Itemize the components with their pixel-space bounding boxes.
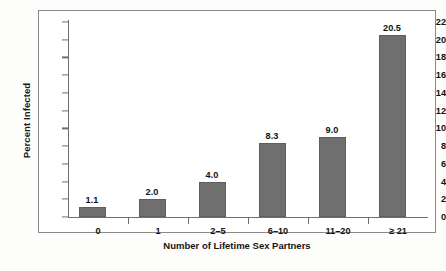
y-tick-label: 12 bbox=[422, 106, 446, 116]
y-tick-mark bbox=[62, 163, 68, 164]
bar bbox=[259, 143, 286, 217]
bar bbox=[139, 199, 166, 217]
x-axis-title: Number of Lifetime Sex Partners bbox=[38, 240, 436, 251]
x-tick-label: ≥ 21 bbox=[389, 226, 407, 236]
bar-value-label: 20.5 bbox=[383, 23, 401, 33]
y-tick-label: 8 bbox=[422, 141, 446, 151]
bar bbox=[79, 207, 106, 217]
y-tick-label: 10 bbox=[422, 123, 446, 133]
y-tick-label: 22 bbox=[422, 17, 446, 27]
y-tick-mark bbox=[62, 21, 68, 22]
bar bbox=[319, 137, 346, 217]
y-tick-label: 20 bbox=[422, 35, 446, 45]
y-axis-title: Percent Infected bbox=[18, 23, 36, 218]
x-tick-label: 0 bbox=[95, 226, 100, 236]
y-tick-mark bbox=[62, 92, 68, 93]
y-tick-label: 2 bbox=[422, 194, 446, 204]
y-tick-label: 18 bbox=[422, 52, 446, 62]
bar bbox=[379, 35, 406, 217]
y-tick-label: 14 bbox=[422, 88, 446, 98]
y-tick-mark bbox=[62, 128, 68, 129]
y-tick-label: 0 bbox=[422, 212, 446, 222]
y-tick-mark bbox=[62, 39, 68, 40]
y-axis-line bbox=[68, 20, 69, 218]
y-tick-mark bbox=[62, 57, 68, 58]
bar-value-label: 9.0 bbox=[326, 125, 339, 135]
x-tick-mark bbox=[128, 218, 129, 224]
x-tick-mark bbox=[368, 218, 369, 224]
chart-figure: Percent Infected 0246810121416182022 012… bbox=[0, 0, 446, 271]
bar-value-label: 4.0 bbox=[206, 170, 219, 180]
y-tick-mark bbox=[62, 110, 68, 111]
x-tick-mark bbox=[248, 218, 249, 224]
x-tick-label: 11–20 bbox=[325, 226, 350, 236]
y-tick-mark bbox=[62, 216, 68, 217]
bar bbox=[199, 182, 226, 217]
x-tick-label: 6–10 bbox=[268, 226, 288, 236]
y-tick-label: 16 bbox=[422, 70, 446, 80]
x-tick-mark bbox=[188, 218, 189, 224]
y-tick-mark bbox=[62, 145, 68, 146]
bar-value-label: 1.1 bbox=[86, 195, 99, 205]
y-tick-mark bbox=[62, 181, 68, 182]
bar-value-label: 2.0 bbox=[146, 187, 159, 197]
x-tick-mark bbox=[308, 218, 309, 224]
y-tick-mark bbox=[62, 199, 68, 200]
y-tick-label: 6 bbox=[422, 159, 446, 169]
x-tick-label: 2–5 bbox=[210, 226, 225, 236]
y-tick-label: 4 bbox=[422, 177, 446, 187]
x-tick-label: 1 bbox=[155, 226, 160, 236]
bar-value-label: 8.3 bbox=[266, 131, 279, 141]
y-tick-mark bbox=[62, 75, 68, 76]
